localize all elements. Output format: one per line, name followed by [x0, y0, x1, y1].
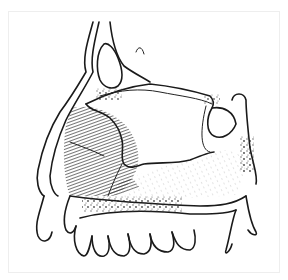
light-hatch-region — [120, 150, 246, 199]
anatomical-drawing — [0, 0, 288, 280]
teeth — [74, 226, 195, 256]
nose-outline — [37, 196, 52, 241]
frontal-sinus — [97, 44, 144, 88]
cavity-roof — [86, 84, 220, 108]
